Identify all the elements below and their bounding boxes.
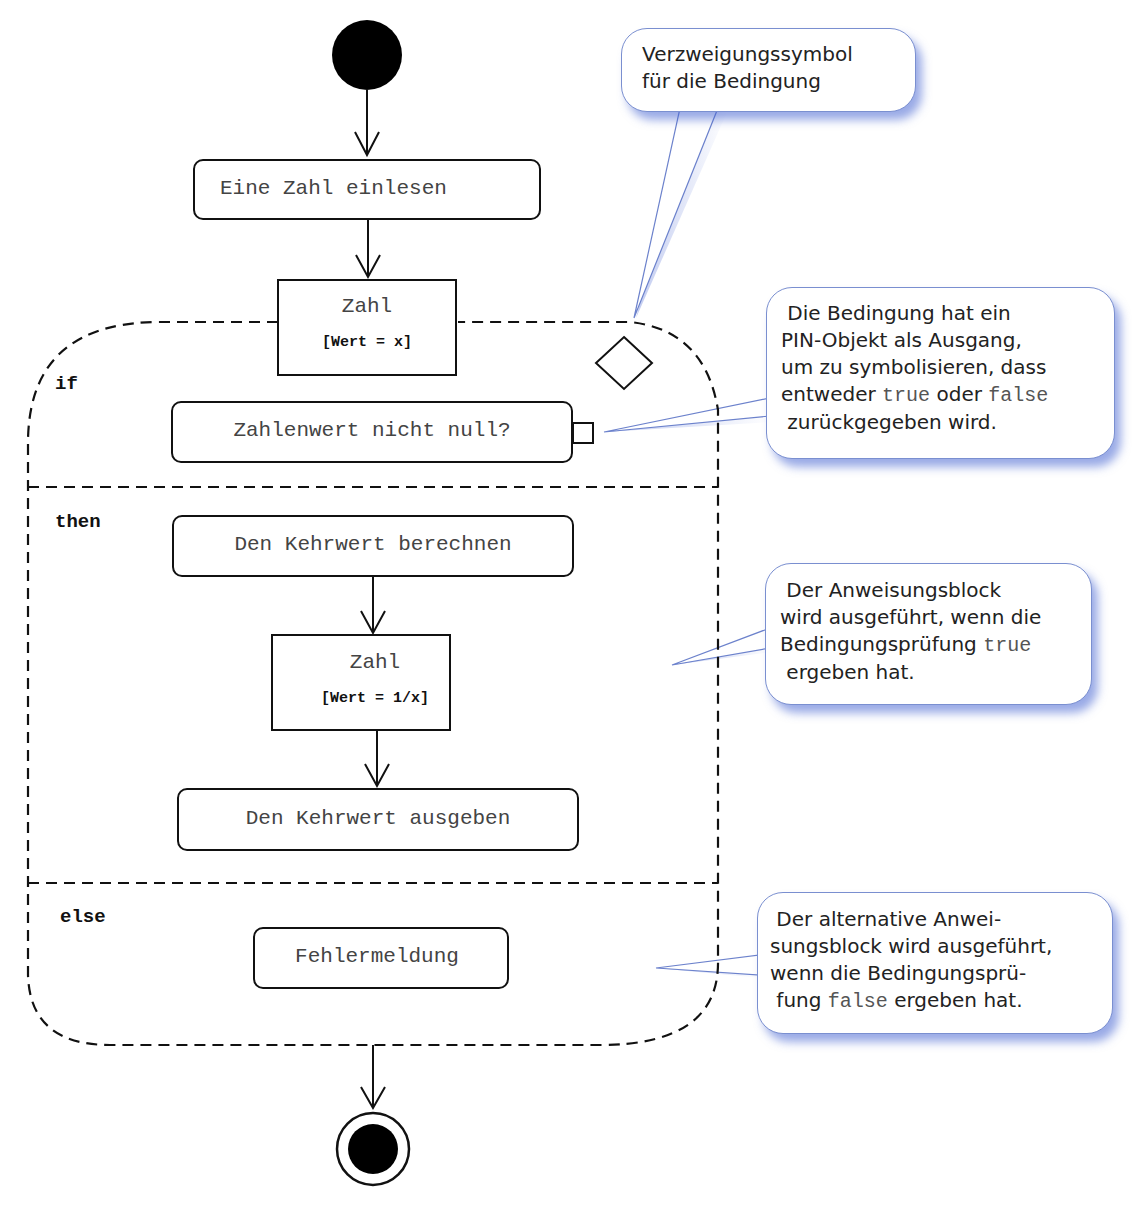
object-node-zahl-x-name: Zahl — [342, 295, 392, 318]
callout-text: entweder true oder false — [781, 381, 1100, 409]
keyword-if: if — [55, 373, 78, 395]
keyword-then: then — [55, 511, 101, 533]
callout-pin-output: Die Bedingung hat ein PIN-Objekt als Aus… — [766, 287, 1115, 459]
object-node-zahl-reciprocal-name: Zahl — [350, 651, 400, 674]
callout-text: Der Anweisungsblock — [780, 577, 1077, 604]
action-compute-reciprocal-label: Den Kehrwert berechnen — [234, 533, 511, 556]
callout-text: zurückgegeben wird. — [781, 409, 1100, 436]
callout-text: um zu symbolisieren, dass — [781, 354, 1100, 381]
callout-then-block: Der Anweisungsblock wird ausgeführt, wen… — [765, 563, 1092, 705]
code-false: false — [828, 990, 888, 1013]
output-pin-icon — [573, 423, 593, 443]
keyword-else: else — [60, 906, 106, 928]
code-false: false — [988, 384, 1048, 407]
callout-text: wird ausgeführt, wenn die — [780, 604, 1077, 631]
callout-text: Verzweigungssymbol — [642, 41, 895, 68]
callout-tail-branch — [634, 108, 728, 318]
action-condition-label: Zahlenwert nicht null? — [233, 419, 510, 442]
object-node-zahl-reciprocal — [272, 635, 450, 730]
callout-text: sungsblock wird ausgeführt, — [770, 933, 1100, 960]
callout-branch-symbol: Verzweigungssymbol für die Bedingung — [621, 28, 916, 112]
callout-text: ergeben hat. — [780, 659, 1077, 686]
callout-text: PIN-Objekt als Ausgang, — [781, 327, 1100, 354]
callout-text: für die Bedingung — [642, 68, 895, 95]
action-error-message-label: Fehlermeldung — [295, 945, 459, 968]
initial-node-icon — [332, 20, 402, 90]
code-true: true — [983, 634, 1031, 657]
code-true: true — [882, 384, 930, 407]
callout-text: Bedingungsprüfung true — [780, 631, 1077, 659]
callout-else-block: Der alternative Anwei- sungsblock wird a… — [757, 892, 1113, 1034]
callout-tail-then — [672, 628, 772, 665]
callout-tail-pin — [604, 398, 772, 432]
callout-text: Die Bedingung hat ein — [781, 300, 1100, 327]
action-output-reciprocal-label: Den Kehrwert ausgeben — [246, 807, 511, 830]
action-read-number-label: Eine Zahl einlesen — [220, 177, 447, 200]
callout-text: wenn die Bedingungsprü- — [770, 960, 1100, 987]
callout-text: fung false ergeben hat. — [770, 987, 1100, 1015]
callout-tail-else — [656, 955, 762, 978]
final-node-icon — [337, 1113, 409, 1185]
object-node-zahl-reciprocal-guard: [Wert = 1/x] — [321, 690, 429, 707]
decision-diamond-icon — [596, 337, 652, 389]
callout-text: Der alternative Anwei- — [770, 906, 1100, 933]
object-node-zahl-x-guard: [Wert = x] — [322, 334, 412, 351]
